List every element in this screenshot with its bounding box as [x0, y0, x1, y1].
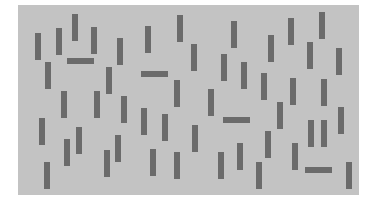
- vertical-bar: [39, 118, 45, 145]
- vertical-bar: [115, 135, 121, 162]
- vertical-bar: [162, 114, 168, 141]
- vertical-bar: [268, 35, 274, 62]
- horizontal-bar-target: [305, 167, 332, 173]
- vertical-bar: [290, 78, 296, 105]
- vertical-bar: [338, 107, 344, 134]
- vertical-bar: [221, 54, 227, 81]
- vertical-bar: [94, 91, 100, 118]
- vertical-bar: [231, 21, 237, 48]
- vertical-bar: [141, 108, 147, 135]
- vertical-bar: [307, 42, 313, 69]
- vertical-bar: [218, 152, 224, 179]
- vertical-bar: [177, 15, 183, 42]
- vertical-bar: [265, 131, 271, 158]
- vertical-bar: [174, 152, 180, 179]
- horizontal-bar-target: [223, 117, 250, 123]
- vertical-bar: [319, 12, 325, 39]
- vertical-bar: [336, 48, 342, 75]
- vertical-bar: [256, 162, 262, 189]
- vertical-bar: [45, 62, 51, 89]
- vertical-bar: [35, 33, 41, 60]
- vertical-bar: [174, 80, 180, 107]
- vertical-bar: [104, 150, 110, 177]
- vertical-bar: [277, 102, 283, 129]
- vertical-bar: [321, 79, 327, 106]
- vertical-bar: [292, 143, 298, 170]
- vertical-bar: [76, 127, 82, 154]
- vertical-bar: [72, 14, 78, 41]
- vertical-bar: [64, 139, 70, 166]
- vertical-bar: [321, 120, 327, 147]
- vertical-bar: [261, 73, 267, 100]
- horizontal-bar-target: [67, 58, 94, 64]
- vertical-bar: [241, 62, 247, 89]
- vertical-bar: [61, 91, 67, 118]
- vertical-bar: [91, 27, 97, 54]
- vertical-bar: [346, 162, 352, 189]
- vertical-bar: [44, 162, 50, 189]
- vertical-bar: [121, 96, 127, 123]
- vertical-bar: [191, 44, 197, 71]
- vertical-bar: [237, 143, 243, 170]
- vertical-bar: [308, 120, 314, 147]
- vertical-bar: [145, 26, 151, 53]
- vertical-bar: [150, 149, 156, 176]
- vertical-bar: [208, 89, 214, 116]
- vertical-bar: [117, 38, 123, 65]
- vertical-bar: [288, 18, 294, 45]
- vertical-bar: [106, 67, 112, 94]
- horizontal-bar-target: [141, 71, 168, 77]
- vertical-bar: [192, 125, 198, 152]
- vertical-bar: [56, 28, 62, 55]
